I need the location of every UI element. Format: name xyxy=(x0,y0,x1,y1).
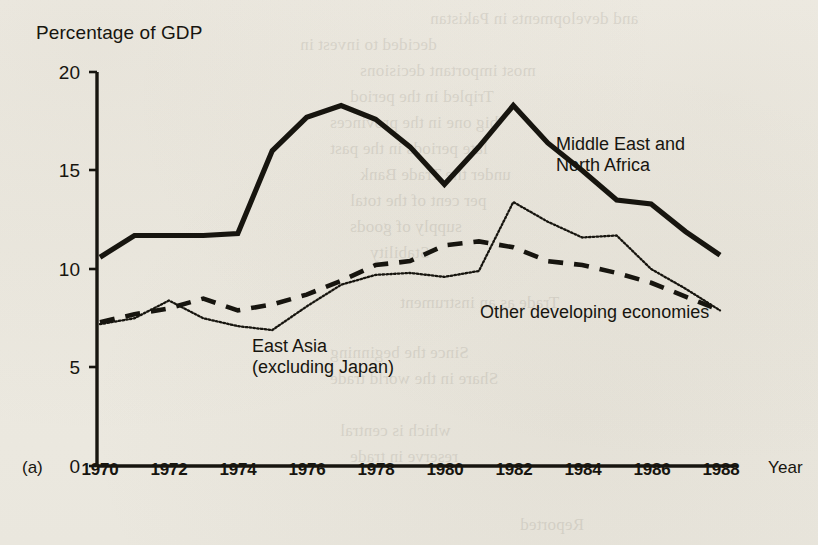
x-tick-label-1986: 1986 xyxy=(618,460,686,480)
series-line-middle-east-north-africa xyxy=(100,105,720,257)
series-label-east-asia-line1: East Asia xyxy=(252,336,394,357)
y-tick-label-20: 20 xyxy=(36,62,80,84)
series-label-other-developing-economies: Other developing economies xyxy=(480,302,709,323)
figure-page: and developments in Pakistan decided to … xyxy=(0,0,818,545)
x-tick-label-1970: 1970 xyxy=(66,460,134,480)
x-tick-label-1980: 1980 xyxy=(411,460,479,480)
y-axis-title: Percentage of GDP xyxy=(36,22,202,44)
x-axis-title: Year xyxy=(768,458,803,478)
x-tick-label-1988: 1988 xyxy=(687,460,755,480)
panel-label: (a) xyxy=(22,458,43,478)
y-tick-label-5: 5 xyxy=(36,357,80,379)
series-label-mena-line2: North Africa xyxy=(556,155,685,176)
series-label-middle-east-north-africa: Middle East and North Africa xyxy=(556,134,685,176)
x-tick-label-1984: 1984 xyxy=(549,460,617,480)
x-tick-label-1974: 1974 xyxy=(204,460,272,480)
y-tick-label-10: 10 xyxy=(36,259,80,281)
y-tick-label-15: 15 xyxy=(36,160,80,182)
series-label-mena-line1: Middle East and xyxy=(556,134,685,155)
series-label-east-asia: East Asia (excluding Japan) xyxy=(252,336,394,378)
x-tick-label-1982: 1982 xyxy=(480,460,548,480)
x-tick-label-1972: 1972 xyxy=(135,460,203,480)
x-tick-label-1978: 1978 xyxy=(342,460,410,480)
x-tick-label-1976: 1976 xyxy=(273,460,341,480)
series-label-east-asia-line2: (excluding Japan) xyxy=(252,357,394,378)
